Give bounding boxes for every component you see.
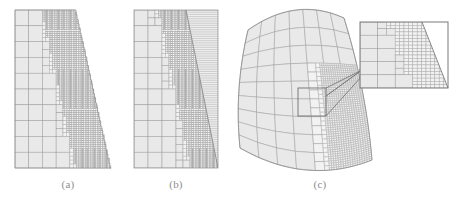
figure-root: (a) (b) (c) <box>0 0 455 204</box>
caption-panel-b: (b) <box>156 178 196 190</box>
caption-panel-c: (c) <box>300 178 340 190</box>
caption-panel-a: (a) <box>48 178 88 190</box>
panel-c-curved-surface-quadtree <box>240 8 376 182</box>
panel-b-diagonal-interface-quadtree <box>134 10 220 170</box>
magnified-inset <box>360 22 450 90</box>
panel-a-staircase-quadtree <box>15 10 113 170</box>
